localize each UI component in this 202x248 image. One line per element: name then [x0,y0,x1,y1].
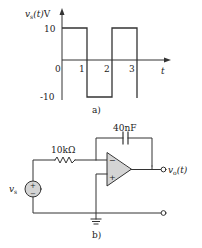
resistor-icon [55,157,75,163]
x-axis-arrow-icon [164,58,171,63]
y-axis-arrow-icon [60,8,65,15]
integrator-circuit: 40nF 10kΩ − + vo(t) + − vs [9,123,188,240]
square-wave-chart: vs(t)V 10 -10 0 1 2 3 t a) [25,8,171,115]
resistor-label: 10kΩ [51,145,75,155]
output-terminal-icon [161,167,166,172]
figure-canvas: vs(t)V 10 -10 0 1 2 3 t a) 40nF 10kΩ − + [0,0,202,248]
wire-bottom-return [33,197,161,213]
ground-icon [91,219,101,224]
wire-source-to-resistor [33,160,55,181]
capacitor-label: 40nF [113,123,137,133]
wire-noninverting-to-ground [96,174,107,219]
x-tick-1: 1 [79,64,85,74]
opamp-inverting-sign: − [109,156,116,165]
y-axis-label: vs(t)V [25,9,51,20]
x-tick-3: 3 [129,64,135,74]
caption-a: a) [92,105,101,115]
wire-feedback-right [128,138,152,166]
output-label: vo(t) [168,165,188,176]
source-label: vs [9,184,17,195]
y-tick-neg10: -10 [40,92,55,102]
y-tick-10: 10 [44,24,56,34]
ground-terminal-icon [161,211,166,216]
x-axis-label: t [161,66,165,76]
origin-label: 0 [55,64,61,74]
waveform-trace [62,28,137,98]
caption-b: b) [92,230,101,240]
opamp-noninverting-sign: + [109,173,116,182]
x-tick-2: 2 [104,64,110,74]
source-plus-sign: + [30,182,36,190]
